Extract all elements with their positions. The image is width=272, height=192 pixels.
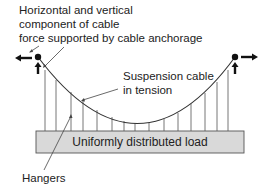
left-vertical-arrow-icon (35, 62, 42, 74)
cable-label-line2: in tension (123, 84, 172, 97)
left-anchor-dot (35, 54, 41, 60)
left-horizontal-arrow-icon (15, 55, 32, 62)
right-horizontal-arrow-icon (241, 54, 258, 61)
deck-label: Uniformly distributed load (36, 131, 244, 153)
anchorage-label-line1: Horizontal and vertical (19, 4, 133, 17)
hangers-label: Hangers (22, 172, 65, 185)
cable-label-line1: Suspension cable (123, 70, 214, 83)
leader-line-cable (83, 89, 118, 100)
anchorage-label-line3: force supported by cable anchorage (19, 32, 202, 45)
anchorage-label-line2: component of cable (19, 18, 119, 31)
right-vertical-arrow-icon (232, 62, 239, 74)
leader-line-vertical (44, 47, 64, 67)
right-anchor-dot (232, 54, 238, 60)
